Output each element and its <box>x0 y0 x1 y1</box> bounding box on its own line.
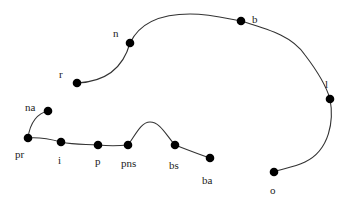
node-p <box>94 141 103 150</box>
node-b <box>237 17 246 26</box>
node-pns <box>124 141 133 150</box>
node-label-pr: pr <box>15 148 25 160</box>
node-label-p: p <box>95 155 101 167</box>
edge-n-b <box>130 14 241 43</box>
node-o <box>270 168 279 177</box>
edge-pr-i <box>28 138 61 142</box>
node-ba <box>206 154 215 163</box>
node-label-b: b <box>252 13 258 25</box>
edge-i-p <box>61 142 98 145</box>
node-label-n: n <box>113 27 119 39</box>
labels-group: rnblonaprippnsbsba <box>15 13 328 196</box>
edge-bs-ba <box>175 145 210 158</box>
node-label-ba: ba <box>202 174 213 186</box>
edge-b-l <box>241 21 330 99</box>
node-l <box>326 95 335 104</box>
node-r <box>73 79 82 88</box>
edge-p-pns <box>98 145 128 146</box>
node-bs <box>171 141 180 150</box>
node-label-o: o <box>270 184 276 196</box>
edges-group <box>28 14 331 172</box>
node-na <box>44 107 53 116</box>
node-label-r: r <box>59 68 63 80</box>
node-label-l: l <box>325 78 328 90</box>
node-label-bs: bs <box>169 159 179 171</box>
edge-pns-bs <box>128 122 175 145</box>
edge-l-o <box>274 99 331 172</box>
node-i <box>57 138 66 147</box>
edge-r-n <box>77 43 130 83</box>
nodes-group <box>24 17 335 177</box>
node-label-i: i <box>58 154 61 166</box>
edge-pr-na <box>28 111 48 138</box>
node-n <box>126 39 135 48</box>
graph-diagram: rnblonaprippnsbsba <box>0 0 348 204</box>
node-label-na: na <box>25 101 36 113</box>
node-label-pns: pns <box>121 157 136 169</box>
node-pr <box>24 134 33 143</box>
